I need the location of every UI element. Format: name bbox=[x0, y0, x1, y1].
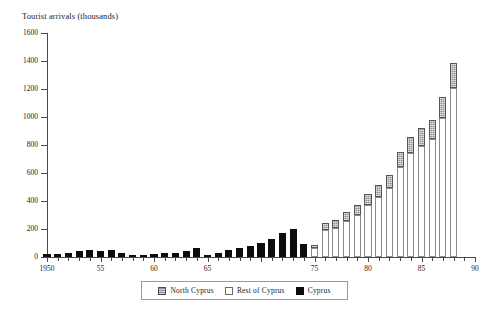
bar-segment-rest-of-cyprus bbox=[439, 118, 446, 257]
x-tick-minor bbox=[411, 257, 412, 261]
x-tick-label: 80 bbox=[364, 265, 372, 273]
bar-group bbox=[225, 250, 232, 257]
bar-group bbox=[364, 194, 371, 257]
bar-segment-rest-of-cyprus bbox=[322, 230, 329, 257]
x-tick-minor bbox=[325, 257, 326, 261]
legend-item-rest-of-cyprus: Rest of Cyprus bbox=[225, 286, 285, 295]
x-tick-minor bbox=[272, 257, 273, 261]
bar-segment-cyprus bbox=[76, 251, 83, 257]
x-tick-major bbox=[154, 257, 155, 262]
bar-segment-cyprus bbox=[268, 239, 275, 257]
bar-segment-cyprus bbox=[140, 255, 147, 257]
bar-segment-cyprus bbox=[236, 248, 243, 257]
bar-group bbox=[236, 248, 243, 257]
x-tick-major bbox=[475, 257, 476, 262]
x-tick-label: 1950 bbox=[40, 265, 55, 273]
bar-segment-cyprus bbox=[215, 253, 222, 257]
y-tick-label: 1200 bbox=[23, 85, 38, 93]
north-cyprus-swatch-icon bbox=[158, 287, 166, 295]
x-tick-major bbox=[101, 257, 102, 262]
bar-group bbox=[150, 254, 157, 257]
bar-segment-rest-of-cyprus bbox=[407, 153, 414, 257]
bar-group bbox=[332, 220, 339, 257]
x-tick-minor bbox=[186, 257, 187, 261]
x-tick-major bbox=[368, 257, 369, 262]
bar-segment-north-cyprus bbox=[397, 152, 404, 167]
legend-item-cyprus: Cyprus bbox=[296, 286, 331, 295]
y-tick bbox=[41, 117, 48, 118]
bar-group bbox=[268, 239, 275, 257]
bar-group bbox=[97, 251, 104, 257]
legend-item-north-cyprus: North Cyprus bbox=[158, 286, 213, 295]
x-tick-minor bbox=[122, 257, 123, 261]
bar-segment-cyprus bbox=[118, 253, 125, 257]
bar-segment-north-cyprus bbox=[343, 212, 350, 221]
bar-group bbox=[450, 63, 457, 257]
y-tick-label: 200 bbox=[27, 225, 38, 233]
y-tick-label: 400 bbox=[27, 197, 38, 205]
bar-segment-rest-of-cyprus bbox=[364, 205, 371, 258]
bar-segment-cyprus bbox=[257, 243, 264, 257]
bar-segment-cyprus bbox=[193, 248, 200, 257]
bar-segment-cyprus bbox=[150, 254, 157, 257]
y-tick-label: 1000 bbox=[23, 113, 38, 121]
bar-segment-north-cyprus bbox=[439, 97, 446, 118]
y-tick-label: 800 bbox=[27, 141, 38, 149]
bar-segment-north-cyprus bbox=[375, 185, 382, 197]
x-tick-minor bbox=[464, 257, 465, 261]
x-tick-minor bbox=[240, 257, 241, 261]
bar-segment-north-cyprus bbox=[332, 220, 339, 228]
bar-segment-north-cyprus bbox=[311, 245, 318, 248]
x-tick-minor bbox=[90, 257, 91, 261]
bar-segment-north-cyprus bbox=[354, 205, 361, 215]
x-tick-minor bbox=[197, 257, 198, 261]
x-tick-minor bbox=[250, 257, 251, 261]
bar-segment-cyprus bbox=[204, 255, 211, 257]
x-tick-major bbox=[47, 257, 48, 262]
x-tick-minor bbox=[400, 257, 401, 261]
chart-legend: North Cyprus Rest of Cyprus Cyprus bbox=[141, 281, 348, 300]
legend-label-north-cyprus: North Cyprus bbox=[170, 286, 213, 295]
bar-group bbox=[300, 244, 307, 257]
x-tick-label: 55 bbox=[97, 265, 105, 273]
chart-container: Tourist arrivals (thousands) 02004006008… bbox=[0, 0, 490, 316]
x-tick-minor bbox=[443, 257, 444, 261]
bar-group bbox=[65, 253, 72, 257]
bar-group bbox=[215, 253, 222, 257]
bar-group bbox=[429, 120, 436, 257]
x-tick-minor bbox=[293, 257, 294, 261]
bar-group bbox=[118, 253, 125, 257]
y-tick bbox=[41, 89, 48, 90]
bar-group bbox=[86, 250, 93, 257]
x-tick-minor bbox=[79, 257, 80, 261]
bar-group bbox=[439, 97, 446, 257]
y-tick bbox=[41, 229, 48, 230]
x-tick-minor bbox=[68, 257, 69, 261]
x-tick-minor bbox=[454, 257, 455, 261]
bar-group bbox=[54, 254, 61, 257]
bar-segment-north-cyprus bbox=[407, 137, 414, 154]
x-tick-minor bbox=[165, 257, 166, 261]
bar-group bbox=[76, 251, 83, 257]
bar-segment-north-cyprus bbox=[386, 175, 393, 188]
bar-group bbox=[257, 243, 264, 257]
x-tick-minor bbox=[218, 257, 219, 261]
bar-group bbox=[129, 256, 136, 257]
bar-group bbox=[172, 253, 179, 257]
x-tick-minor bbox=[58, 257, 59, 261]
bar-segment-north-cyprus bbox=[418, 128, 425, 147]
x-tick-minor bbox=[347, 257, 348, 261]
y-tick bbox=[41, 145, 48, 146]
bar-group bbox=[375, 185, 382, 257]
bar-segment-rest-of-cyprus bbox=[375, 197, 382, 257]
bar-segment-cyprus bbox=[247, 246, 254, 257]
bar-segment-north-cyprus bbox=[450, 63, 457, 88]
bar-segment-cyprus bbox=[129, 255, 136, 257]
bar-group bbox=[43, 254, 50, 257]
x-tick-minor bbox=[432, 257, 433, 261]
x-tick-label: 65 bbox=[204, 265, 212, 273]
bar-group bbox=[247, 246, 254, 257]
x-tick-label: 75 bbox=[311, 265, 319, 273]
bar-group bbox=[108, 250, 115, 257]
bar-segment-north-cyprus bbox=[322, 223, 329, 231]
